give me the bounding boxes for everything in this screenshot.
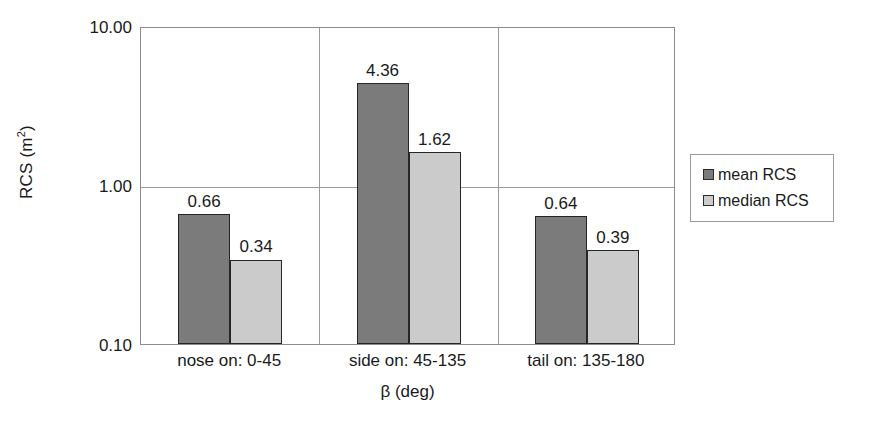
plot-area: 0.660.344.361.620.640.39 (140, 27, 675, 345)
y-axis-tick-label: 10.00 (70, 19, 132, 36)
legend-label-median: median RCS (718, 192, 809, 210)
bar-mean-group-2[interactable] (357, 83, 409, 344)
legend-swatch-mean-icon (703, 169, 714, 180)
bar-median-group-2[interactable] (409, 152, 461, 344)
legend-item-median-rcs: median RCS (703, 190, 823, 211)
legend-item-mean-rcs: mean RCS (703, 164, 823, 185)
x-axis-title: β (deg) (140, 382, 675, 402)
y-axis-title-text: RCS (m (17, 137, 36, 199)
bar-mean-group-1[interactable] (178, 214, 230, 344)
y-axis-title: RCS (m2) (17, 97, 37, 227)
chart-legend: mean RCS median RCS (690, 154, 834, 222)
group-separator-line (498, 28, 499, 344)
x-axis-tick-label: tail on: 135-180 (497, 352, 675, 369)
bar-value-label: 0.39 (575, 229, 651, 246)
bar-median-group-3[interactable] (587, 250, 639, 344)
bar-value-label: 1.62 (397, 131, 473, 148)
legend-swatch-median-icon (703, 195, 714, 206)
y-axis-tick-label: 0.10 (70, 337, 132, 354)
bar-value-label: 0.66 (166, 193, 242, 210)
y-axis-title-superscript: 2 (15, 131, 27, 137)
y-axis-tick-label: 1.00 (70, 178, 132, 195)
x-axis-tick-label: nose on: 0-45 (140, 352, 318, 369)
bar-median-group-1[interactable] (230, 260, 282, 345)
x-axis-tick-label: side on: 45-135 (318, 352, 496, 369)
bar-value-label: 0.64 (523, 195, 599, 212)
chart-figure: RCS (m2) 10.001.000.10 0.660.344.361.620… (0, 0, 872, 426)
y-axis-tick-labels: 10.001.000.10 (62, 27, 132, 345)
x-axis-tick-labels: nose on: 0-45side on: 45-135tail on: 135… (140, 352, 675, 378)
group-separator-line (319, 28, 320, 344)
y-axis-title-close: ) (17, 125, 36, 131)
bar-value-label: 0.34 (218, 238, 294, 255)
legend-label-mean: mean RCS (718, 166, 796, 184)
bar-value-label: 4.36 (345, 62, 421, 79)
